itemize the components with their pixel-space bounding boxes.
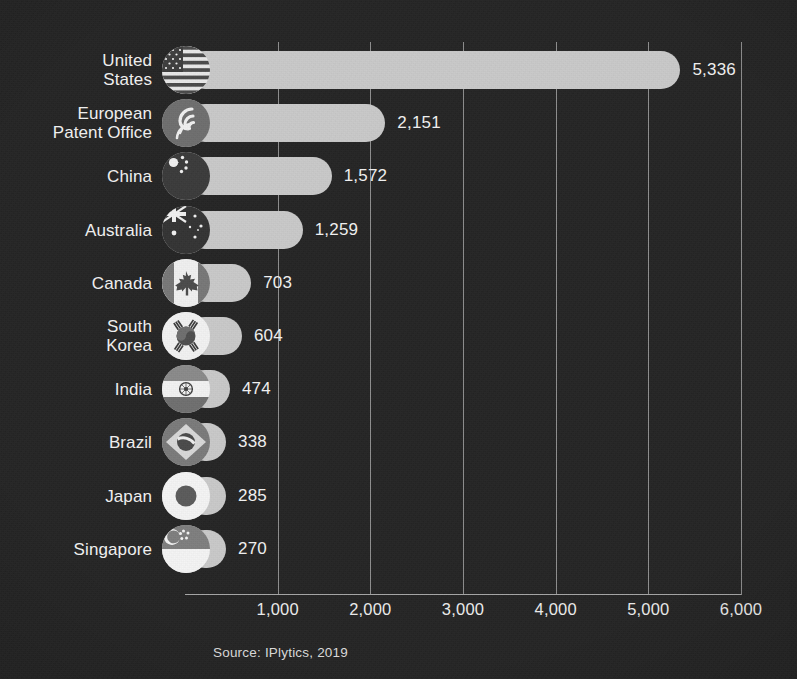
bar-value-label: 2,151: [397, 113, 441, 133]
category-label: India: [0, 380, 152, 399]
bar-row: Japan 285: [0, 472, 797, 520]
x-axis-tick-label: 4,000: [535, 600, 577, 619]
flag-european-patent-office-icon: [162, 99, 210, 147]
category-label: United States: [0, 51, 152, 89]
bar-value-label: 474: [242, 379, 271, 399]
bar-value-label: 270: [238, 539, 267, 559]
category-label: South Korea: [0, 317, 152, 355]
bar-value-label: 338: [238, 432, 267, 452]
category-label: Singapore: [0, 539, 152, 558]
source-note: Source: IPlytics, 2019: [213, 645, 348, 660]
category-label: Japan: [0, 486, 152, 505]
flag-brazil-icon: [162, 418, 210, 466]
bar-row: United States 5,336: [0, 46, 797, 94]
bar-row: Brazil 338: [0, 418, 797, 466]
bar-value-label: 1,259: [315, 220, 359, 240]
category-label: Australia: [0, 220, 152, 239]
bar-row: China 1,572: [0, 152, 797, 200]
flag-singapore-icon: [162, 525, 210, 573]
flag-japan-icon: [162, 472, 210, 520]
bar-value-label: 5,336: [692, 60, 736, 80]
category-label: Canada: [0, 273, 152, 292]
category-label: China: [0, 167, 152, 186]
x-axis-tick-label: 3,000: [442, 600, 484, 619]
flag-india-icon: [162, 365, 210, 413]
chart-page: 1,0002,0003,0004,0005,0006,000United Sta…: [0, 0, 797, 679]
flag-china-icon: [162, 152, 210, 200]
bar-value-label: 285: [238, 486, 267, 506]
flag-united-states-icon: [162, 46, 210, 94]
category-label: European Patent Office: [0, 104, 152, 142]
bar-row: European Patent Office 2,151: [0, 99, 797, 147]
bar-value-label: 604: [254, 326, 283, 346]
bar-value-label: 1,572: [344, 166, 388, 186]
flag-south-korea-icon: [162, 312, 210, 360]
category-label: Brazil: [0, 433, 152, 452]
flag-australia-icon: [162, 206, 210, 254]
x-axis-tick-label: 1,000: [257, 600, 299, 619]
flag-canada-icon: [162, 259, 210, 307]
x-axis-tick-label: 6,000: [720, 600, 762, 619]
bar-row: South Korea: [0, 312, 797, 360]
x-axis-tick-label: 2,000: [349, 600, 391, 619]
bar-chart-plot-area: 1,0002,0003,0004,0005,0006,000United Sta…: [0, 0, 797, 679]
bar-value-label: 703: [263, 273, 292, 293]
bar-row: Singapore 270: [0, 525, 797, 573]
x-axis-line: [185, 594, 741, 595]
bar[interactable]: [186, 104, 385, 142]
bar-row: Australia 1,259: [0, 206, 797, 254]
bar[interactable]: [186, 51, 680, 89]
bar-row: Canada 703: [0, 259, 797, 307]
bar-row: India 474: [0, 365, 797, 413]
x-axis-tick-label: 5,000: [627, 600, 669, 619]
